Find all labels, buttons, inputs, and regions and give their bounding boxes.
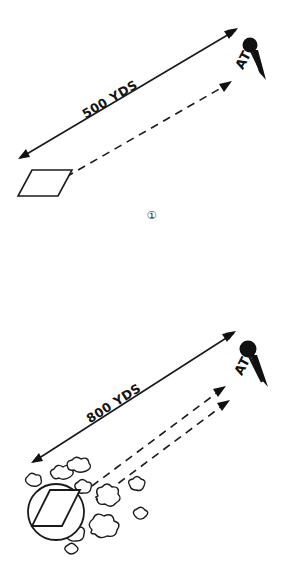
figure-1-drawing: 500 YDS AT — [0, 0, 303, 290]
range-label-2-text: 800 YDS — [84, 380, 144, 426]
dashed-arrow-1 — [66, 81, 232, 177]
range-label-1: 500 YDS — [79, 77, 140, 121]
figure-2-drawing: 800 YDS — [0, 290, 303, 580]
figure-1-caption: ① — [0, 210, 303, 221]
range-label-2: 800 YDS — [84, 380, 144, 426]
figure-2: 800 YDS — [0, 290, 303, 580]
vehicle-symbol-1 — [18, 170, 72, 196]
figure-1: 500 YDS AT ① — [0, 0, 303, 290]
range-label-1-text: 500 YDS — [79, 77, 140, 121]
dashed-arrow-2b — [96, 400, 230, 500]
vehicle-symbol-2 — [28, 484, 84, 540]
diagram-sheet: 500 YDS AT ① — [0, 0, 303, 580]
